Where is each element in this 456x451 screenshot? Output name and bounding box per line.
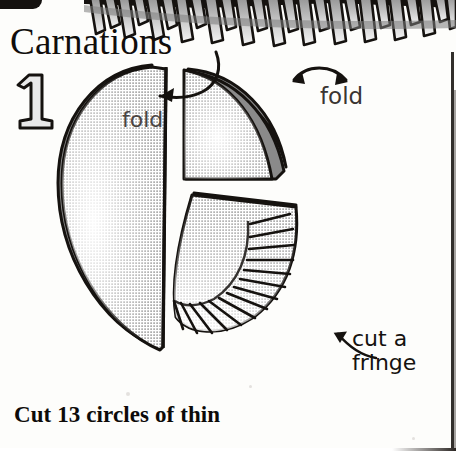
piece-quarter-circle-fringed [174,193,297,333]
book-page: Carnations 1 [0,0,456,451]
label-fold-right: fold [320,84,363,109]
scan-speck [249,385,252,388]
scan-speck [126,392,130,396]
label-cut-a-fringe: cut a fringe [352,327,416,375]
label-fold-left: fold [122,108,163,132]
scan-edge-top-left [0,0,42,9]
scan-speck [412,437,415,440]
body-caption: Cut 13 circles of thin [14,402,220,428]
